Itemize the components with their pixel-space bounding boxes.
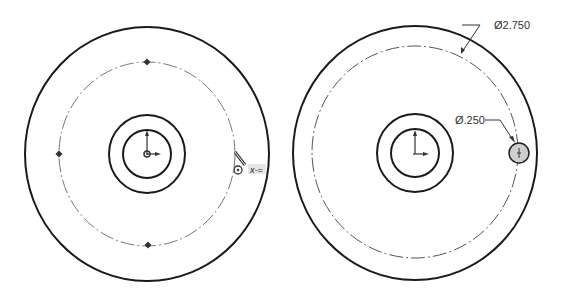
svg-text:Ø.250: Ø.250 <box>455 114 485 126</box>
sketch-point-top[interactable] <box>143 58 150 65</box>
left-view: x-= <box>25 27 269 281</box>
drawing-canvas: x-= Ø2.750 Ø.250 <box>0 0 561 296</box>
cursor-pencil-icon <box>234 152 245 174</box>
bolt-circle-dimension[interactable]: Ø2.750 <box>461 19 530 54</box>
hole-dimension[interactable]: Ø.250 <box>455 114 515 143</box>
inference-symbol: x-= <box>248 164 266 175</box>
sketch-point-left[interactable] <box>55 150 62 157</box>
right-view: Ø2.750 Ø.250 <box>293 19 537 280</box>
svg-text:x-=: x-= <box>249 165 263 175</box>
svg-text:Ø2.750: Ø2.750 <box>494 19 530 31</box>
sketch-point-bottom[interactable] <box>144 241 151 248</box>
origin-icon <box>413 130 429 156</box>
